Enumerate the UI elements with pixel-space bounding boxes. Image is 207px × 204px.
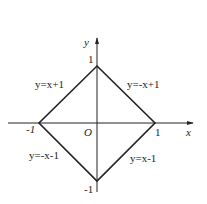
tick-y-pos: 1: [88, 53, 94, 65]
line-label-upper-left: y=x+1: [35, 78, 64, 90]
tick-y-neg: -1: [84, 183, 93, 195]
line-label-lower-right: y=x-1: [130, 152, 156, 164]
tick-x-neg: -1: [26, 123, 35, 135]
coordinate-diagram: y x O 1 -1 1 -1 y=x+1 y=-x+1 y=-x-1 y=x-…: [0, 0, 207, 204]
line-label-lower-left: y=-x-1: [29, 149, 59, 161]
y-axis-label: y: [83, 36, 89, 48]
origin-label: O: [84, 126, 92, 138]
line-label-upper-right: y=-x+1: [127, 78, 160, 90]
tick-x-pos: 1: [155, 126, 161, 138]
x-axis-label: x: [185, 126, 191, 138]
